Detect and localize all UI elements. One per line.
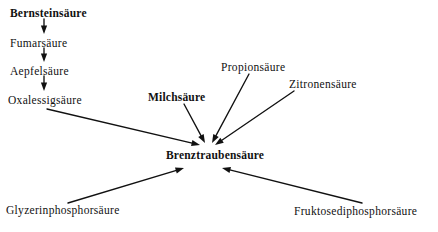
arrow-layer: [0, 0, 438, 232]
edge-zitronensaeure-brenztraubensaeure: [221, 91, 294, 141]
node-fumarsaeure: Fumarsäure: [10, 38, 67, 50]
node-fruktosediphosphorsaeure: Fruktosediphosphorsäure: [294, 206, 417, 218]
edge-milchsaeure-brenztraubensaeure-arrowhead-icon: [198, 134, 205, 143]
edge-propionsaeure-brenztraubensaeure: [215, 74, 249, 137]
edge-oxalessigsaeure-brenztraubensaeure: [47, 109, 193, 143]
edge-bernsteinsaeure-fumarsaeure-arrowhead-icon: [41, 26, 47, 35]
node-oxalessigsaeure: Oxalessigsäure: [8, 95, 82, 107]
edge-glyzerinphosphorsaeure-brenztraubensaeure: [68, 170, 177, 203]
node-bernsteinsaeure: Bernsteinsäure: [10, 8, 87, 20]
node-milchsaeure: Milchsäure: [148, 92, 205, 104]
edge-aepfelsaeure-oxalessigsaeure-arrowhead-icon: [41, 83, 47, 92]
edge-fruktosediphosphorsaeure-brenztraubensaeure: [229, 170, 362, 203]
cropped-caption-sliver: [4, 224, 214, 231]
edge-glyzerinphosphorsaeure-brenztraubensaeure-arrowhead-icon: [175, 167, 184, 173]
metabolic-pathway-diagram: Bernsteinsäure Fumarsäure Aepfelsäure Ox…: [0, 0, 438, 232]
node-zitronensaeure: Zitronensäure: [289, 79, 357, 91]
edge-milchsaeure-brenztraubensaeure: [184, 104, 202, 137]
node-aepfelsaeure: Aepfelsäure: [10, 66, 69, 78]
node-glyzerinphosphorsaeure: Glyzerinphosphorsäure: [6, 205, 120, 217]
edge-fumarsaeure-aepfelsaeure-arrowhead-icon: [41, 54, 47, 63]
node-brenztraubensaeure: Brenztraubensäure: [166, 150, 264, 162]
node-propionsaeure: Propionsäure: [221, 62, 285, 74]
edge-oxalessigsaeure-brenztraubensaeure-arrowhead-icon: [191, 140, 200, 146]
edge-fruktosediphosphorsaeure-brenztraubensaeure-arrowhead-icon: [222, 167, 231, 173]
